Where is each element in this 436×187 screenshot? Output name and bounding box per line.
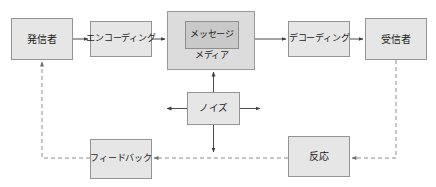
node-encoding-label: エンコーディング <box>86 34 155 44</box>
edge-feedback-to-sender <box>42 62 90 158</box>
node-reaction[interactable]: 反応 <box>288 136 350 177</box>
node-sender[interactable]: 発信者 <box>11 18 73 60</box>
node-media[interactable]: メッセージ メディア <box>167 11 255 70</box>
node-media-label: メディア <box>168 51 256 61</box>
node-feedback-label: フィードバック <box>90 154 152 164</box>
node-noise-label: ノイズ <box>199 103 228 113</box>
node-message-label: メッセージ <box>190 30 234 40</box>
node-noise[interactable]: ノイズ <box>187 92 240 125</box>
node-feedback[interactable]: フィードバック <box>90 139 152 179</box>
node-encoding[interactable]: エンコーディング <box>90 21 152 57</box>
node-decoding[interactable]: デコーディング <box>288 21 350 57</box>
node-message[interactable]: メッセージ <box>185 21 239 49</box>
edge-receiver-to-reaction <box>352 60 396 158</box>
node-decoding-label: デコーディング <box>289 34 350 44</box>
node-reaction-label: 反応 <box>309 151 329 162</box>
communication-model-diagram: 発信者 エンコーディング メッセージ メディア デコーディング 受信者 ノイズ … <box>0 0 436 187</box>
node-sender-label: 発信者 <box>27 34 56 45</box>
node-receiver[interactable]: 受信者 <box>365 18 427 60</box>
node-receiver-label: 受信者 <box>381 34 410 45</box>
